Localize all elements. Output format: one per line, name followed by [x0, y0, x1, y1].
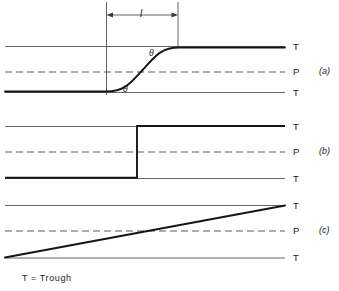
theta-angle-label-upper: θ: [149, 49, 154, 58]
figure-drawing: [0, 0, 339, 291]
panel-c-label: (c): [319, 226, 330, 235]
panel-b-graphics: [5, 126, 285, 179]
panel-b-pool-label: P: [293, 147, 300, 157]
dimension-arrowhead-left: [107, 12, 114, 17]
panel-a-trough-label-top: T: [293, 42, 299, 52]
panel-b-trough-label-top: T: [293, 122, 299, 132]
figure-container: l θ θ T P T (a) T P T (b) T P T (c) T = …: [0, 0, 339, 291]
panel-b-label: (b): [319, 147, 330, 156]
panel-c-trough-label-bottom: T: [293, 253, 299, 263]
panel-b-trough-label-bottom: T: [293, 174, 299, 184]
panel-a-transition-curve: [5, 48, 285, 92]
panel-a-pool-label: P: [293, 67, 300, 77]
length-dimension-label: l: [140, 9, 142, 19]
panel-c-pool-label: P: [293, 226, 300, 236]
figure-caption: T = Trough: [22, 274, 72, 283]
panel-c-graphics: [5, 206, 285, 259]
panel-c-trough-label-top: T: [293, 201, 299, 211]
panel-a-label: (a): [319, 67, 330, 76]
dimension-arrowhead-right: [172, 12, 179, 17]
panel-a-trough-label-bottom: T: [293, 88, 299, 98]
panel-a-graphics: [5, 2, 285, 95]
theta-angle-label-lower: θ: [123, 85, 128, 94]
